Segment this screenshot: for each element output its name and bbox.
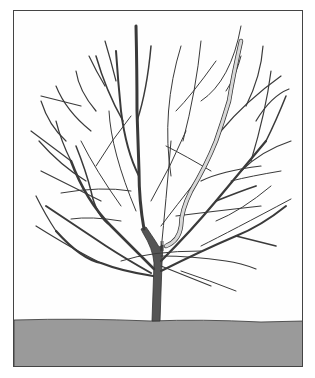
- tree-illustration: [14, 11, 303, 367]
- illustration-frame: [13, 10, 303, 367]
- ground: [14, 319, 303, 367]
- branches: [31, 26, 291, 291]
